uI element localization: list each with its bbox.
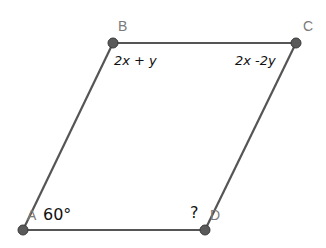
point-a[interactable] bbox=[18, 225, 28, 235]
vertex-label-b: B bbox=[118, 18, 127, 34]
parallelogram-sides bbox=[23, 43, 296, 230]
point-d[interactable] bbox=[200, 225, 210, 235]
side-ab bbox=[23, 43, 113, 230]
angle-a-value: 60° bbox=[43, 205, 71, 224]
vertex-label-d: D bbox=[210, 207, 220, 223]
vertex-label-a: A bbox=[27, 207, 37, 223]
vertex-label-c: C bbox=[303, 18, 313, 34]
angle-b-expression: 2x + y bbox=[114, 53, 157, 68]
point-b[interactable] bbox=[108, 38, 118, 48]
side-cd bbox=[205, 43, 296, 230]
angle-d-unknown: ? bbox=[190, 203, 199, 222]
point-c[interactable] bbox=[291, 38, 301, 48]
parallelogram-diagram: A B C D 2x + y 2x -2y 60° ? bbox=[0, 0, 326, 248]
angle-c-expression: 2x -2y bbox=[235, 53, 276, 68]
